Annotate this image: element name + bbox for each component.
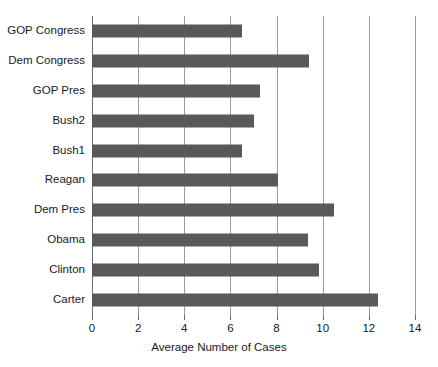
x-tick-label: 10 xyxy=(316,322,329,334)
x-tick-label: 0 xyxy=(89,322,95,334)
bar-row: Obama xyxy=(92,225,415,255)
bar xyxy=(92,294,378,307)
bar-row: Bush1 xyxy=(92,136,415,166)
x-tick-mark xyxy=(138,315,139,320)
bar-chart: GOP CongressDem CongressGOP PresBush2Bus… xyxy=(0,0,438,367)
x-tick-label: 4 xyxy=(181,322,187,334)
bar-row: Clinton xyxy=(92,255,415,285)
bar-row: Dem Congress xyxy=(92,46,415,76)
x-tick-label: 8 xyxy=(273,322,279,334)
x-tick-mark xyxy=(184,315,185,320)
x-tick-label: 6 xyxy=(227,322,233,334)
bar xyxy=(92,174,278,187)
x-tick-mark xyxy=(277,315,278,320)
y-tick-label: GOP Congress xyxy=(7,25,85,37)
bar xyxy=(92,234,308,247)
gridline xyxy=(415,16,416,315)
y-tick-label: Reagan xyxy=(45,175,85,187)
bar-row: Carter xyxy=(92,285,415,315)
bar xyxy=(92,114,254,127)
x-tick-mark xyxy=(369,315,370,320)
y-tick-label: Bush2 xyxy=(52,115,85,127)
x-axis-title: Average Number of Cases xyxy=(0,341,438,353)
x-tick-label: 14 xyxy=(409,322,422,334)
x-tick-label: 12 xyxy=(362,322,375,334)
bar xyxy=(92,144,242,157)
y-tick-label: Carter xyxy=(53,294,85,306)
bar-row: GOP Congress xyxy=(92,16,415,46)
y-tick-label: GOP Pres xyxy=(33,85,85,97)
bar-row: GOP Pres xyxy=(92,76,415,106)
bar-row: Dem Pres xyxy=(92,195,415,225)
x-tick-mark xyxy=(92,315,93,320)
x-tick-mark xyxy=(323,315,324,320)
bar-row: Reagan xyxy=(92,166,415,196)
bar xyxy=(92,24,242,37)
bar xyxy=(92,84,260,97)
y-tick-label: Dem Congress xyxy=(8,55,85,67)
bar-row: Bush2 xyxy=(92,106,415,136)
y-tick-label: Obama xyxy=(47,234,85,246)
x-tick-label: 2 xyxy=(135,322,141,334)
plot-area: GOP CongressDem CongressGOP PresBush2Bus… xyxy=(92,16,415,315)
bar xyxy=(92,204,334,217)
y-tick-label: Dem Pres xyxy=(34,205,85,217)
y-tick-label: Clinton xyxy=(49,264,85,276)
bar xyxy=(92,264,319,277)
y-tick-label: Bush1 xyxy=(52,145,85,157)
x-tick-mark xyxy=(415,315,416,320)
x-tick-mark xyxy=(230,315,231,320)
bar xyxy=(92,54,309,67)
